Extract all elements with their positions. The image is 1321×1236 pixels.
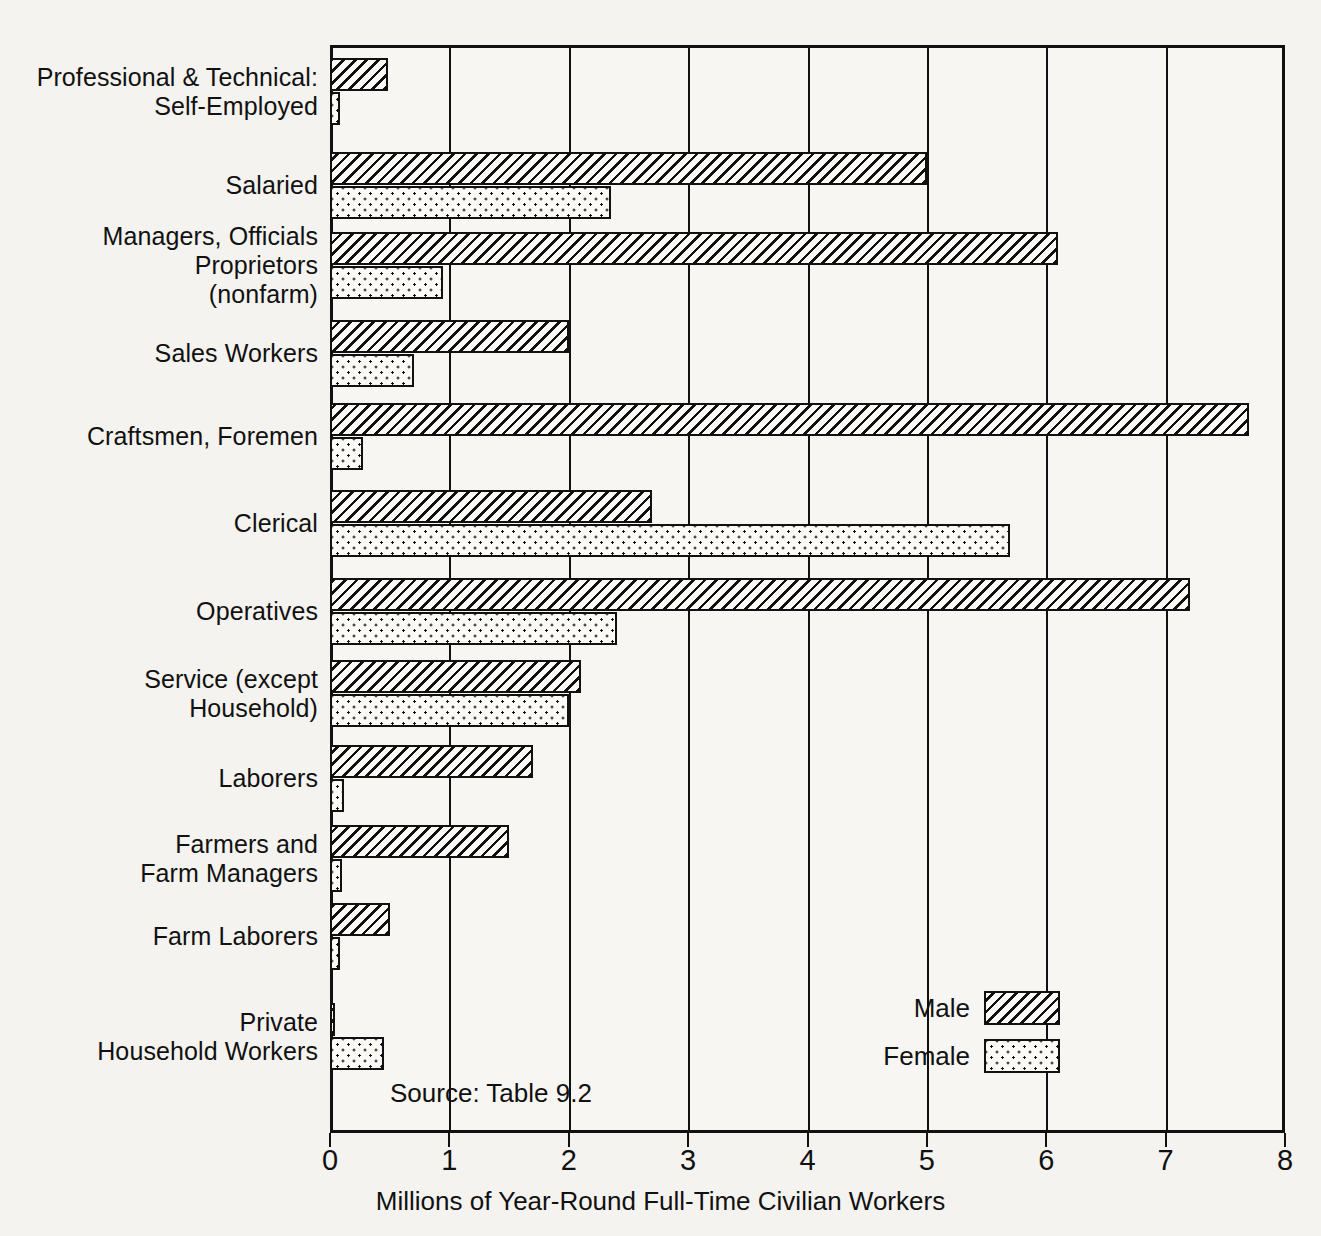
x-tick-label: 3: [658, 1144, 718, 1177]
category-label: Service (except Household): [144, 665, 318, 723]
bar-male: [330, 58, 388, 91]
category-label: Laborers: [219, 764, 318, 793]
x-tick-label: 2: [539, 1144, 599, 1177]
legend-label-female: Female: [883, 1041, 970, 1072]
bar-male: [330, 825, 509, 858]
bar-male: [330, 152, 927, 185]
category-label: Farm Laborers: [153, 922, 318, 951]
bar-male: [330, 403, 1249, 436]
bar-female: [330, 937, 340, 970]
legend-item-male: Male: [880, 990, 1060, 1026]
category-label: Sales Workers: [155, 339, 318, 368]
bar-male: [330, 232, 1058, 265]
legend-item-female: Female: [880, 1038, 1060, 1074]
x-tick-label: 5: [897, 1144, 957, 1177]
bar-male: [330, 320, 569, 353]
legend-swatch-female-icon: [984, 1039, 1060, 1073]
x-tick-label: 1: [419, 1144, 479, 1177]
bar-female: [330, 524, 1010, 557]
legend-swatch-male-icon: [984, 991, 1060, 1025]
category-label: Professional & Technical: Self-Employed: [37, 63, 318, 121]
legend-label-male: Male: [914, 993, 970, 1024]
bar-chart: Professional & Technical: Self-EmployedS…: [0, 0, 1321, 1236]
category-label: Managers, Officials Proprietors (nonfarm…: [103, 222, 318, 309]
bar-male: [330, 745, 533, 778]
bar-female: [330, 859, 342, 892]
x-axis-title: Millions of Year-Round Full-Time Civilia…: [0, 1186, 1321, 1217]
x-tick-label: 8: [1255, 1144, 1315, 1177]
category-label: Private Household Workers: [97, 1008, 318, 1066]
category-label: Operatives: [196, 597, 318, 626]
bar-female: [330, 354, 414, 387]
bar-female: [330, 694, 569, 727]
bar-female: [330, 612, 617, 645]
bar-female: [330, 266, 443, 299]
source-note: Source: Table 9.2: [390, 1078, 592, 1109]
bar-male: [330, 903, 390, 936]
bar-female: [330, 186, 611, 219]
legend: Male Female: [880, 990, 1060, 1086]
bar-female: [330, 1037, 384, 1070]
x-tick-label: 7: [1136, 1144, 1196, 1177]
category-label: Clerical: [234, 509, 318, 538]
category-label: Craftsmen, Foremen: [87, 422, 318, 451]
bar-female: [330, 437, 363, 470]
bar-male: [330, 490, 652, 523]
x-tick-label: 6: [1016, 1144, 1076, 1177]
category-label: Farmers and Farm Managers: [140, 830, 318, 888]
bar-male: [330, 578, 1190, 611]
x-tick-label: 4: [778, 1144, 838, 1177]
category-label: Salaried: [225, 171, 318, 200]
bar-female: [330, 92, 340, 125]
x-tick-label: 0: [300, 1144, 360, 1177]
bar-female: [330, 779, 344, 812]
bar-male: [330, 1003, 335, 1036]
bar-male: [330, 660, 581, 693]
